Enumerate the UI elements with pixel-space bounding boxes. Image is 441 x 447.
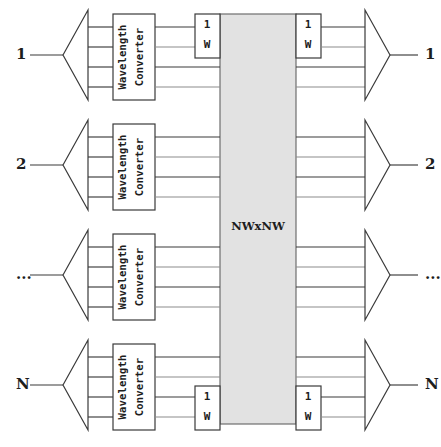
input-port-label-3: ... <box>16 265 32 283</box>
mux-triangle-1 <box>365 10 390 100</box>
input-port-label-1: 1 <box>16 45 26 63</box>
input-port-label-2: 2 <box>16 155 26 173</box>
output-port-label-2: 2 <box>425 155 435 173</box>
wavelength-converter-label-line1-3: Wavelength <box>116 244 128 309</box>
output-amplifier-label-line2-1: W <box>305 38 312 51</box>
optical-switch-diagram: NWxNW Wavelength Converter 1 W <box>0 0 441 447</box>
output-port-label-4: N <box>425 375 439 393</box>
input-amplifier-label-line1-1: 1 <box>204 18 211 31</box>
switch-fabric-label: NWxNW <box>231 219 286 233</box>
demux-triangle-4 <box>63 340 88 430</box>
wavelength-converter-label-line2-3: Converter <box>133 248 145 307</box>
wavelength-converter-label-line1-2: Wavelength <box>116 134 128 199</box>
demux-triangle-2 <box>63 120 88 210</box>
output-amplifier-label-line1-1: 1 <box>305 18 312 31</box>
wavelength-converter-label-line2-1: Converter <box>133 28 145 87</box>
wavelength-converter-label-line1-1: Wavelength <box>116 24 128 89</box>
wavelength-converter-label-line1-4: Wavelength <box>116 354 128 419</box>
diagram-canvas: NWxNW Wavelength Converter 1 W <box>0 0 441 447</box>
demux-triangle-1 <box>63 10 88 100</box>
output-port-label-3: ... <box>425 265 441 283</box>
output-amplifier-label-line2-4: W <box>305 410 312 423</box>
input-amplifier-label-line2-1: W <box>204 38 211 51</box>
output-amplifier-label-line1-4: 1 <box>305 390 312 403</box>
mux-triangle-4 <box>365 340 390 430</box>
output-port-label-1: 1 <box>425 45 435 63</box>
input-amplifier-label-line1-4: 1 <box>204 390 211 403</box>
input-amplifier-label-line2-4: W <box>204 410 211 423</box>
switch-fabric: NWxNW <box>220 14 296 424</box>
input-port-label-4: N <box>16 375 30 393</box>
wavelength-converter-label-line2-4: Converter <box>133 358 145 417</box>
wavelength-converter-label-line2-2: Converter <box>133 138 145 197</box>
demux-triangle-3 <box>63 230 88 320</box>
mux-triangle-3 <box>365 230 390 320</box>
mux-triangle-2 <box>365 120 390 210</box>
